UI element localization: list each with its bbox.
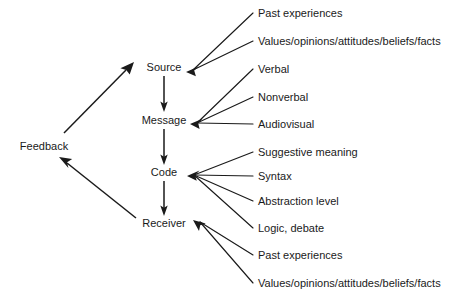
node-label-receiver[interactable]: Receiver — [142, 217, 186, 229]
branch-lines-code — [187, 152, 253, 228]
flow-arrow-feedback-to-source — [64, 62, 134, 133]
communication-model-diagram: Source Message Code Receiver Feedback Pa… — [0, 0, 456, 297]
branch-lines-receiver — [193, 220, 253, 283]
branch-label-code-abstraction-level[interactable]: Abstraction level — [258, 195, 339, 207]
branch-lines-message — [190, 69, 253, 129]
node-label-feedback[interactable]: Feedback — [20, 140, 69, 152]
branch-line-source-values — [193, 41, 253, 70]
branch-label-source-values[interactable]: Values/opinions/attitudes/beliefs/facts — [258, 35, 441, 47]
branch-label-code-syntax[interactable]: Syntax — [258, 170, 292, 182]
node-label-message[interactable]: Message — [142, 114, 187, 126]
feedback-loop-group — [59, 62, 136, 218]
branch-line-code-syntax — [194, 175, 253, 176]
branch-arrowhead-source — [186, 66, 199, 76]
flow-arrow-source-to-message — [160, 76, 167, 112]
spine-flow-group — [160, 76, 167, 216]
branch-arrowhead-receiver — [193, 220, 206, 231]
diagram-canvas: Source Message Code Receiver Feedback Pa… — [0, 0, 456, 297]
node-label-source[interactable]: Source — [147, 61, 182, 73]
branch-line-source-past-experiences — [193, 13, 253, 70]
branch-line-code-suggestive-meaning — [194, 152, 253, 175]
branch-label-receiver-past-experiences[interactable]: Past experiences — [258, 249, 343, 261]
branch-label-receiver-values[interactable]: Values/opinions/attitudes/beliefs/facts — [258, 277, 441, 289]
branch-labels-group: Past experiences Values/opinions/attitud… — [258, 7, 441, 289]
branch-arrowhead-code — [187, 171, 200, 181]
branch-line-message-audiovisual — [197, 123, 253, 124]
branch-label-code-suggestive-meaning[interactable]: Suggestive meaning — [258, 146, 358, 158]
branch-line-code-logic-debate — [194, 175, 253, 228]
branch-label-message-verbal[interactable]: Verbal — [258, 63, 289, 75]
branch-label-code-logic-debate[interactable]: Logic, debate — [258, 222, 324, 234]
branch-lines-source — [186, 13, 253, 76]
node-label-code[interactable]: Code — [151, 166, 177, 178]
branch-label-message-nonverbal[interactable]: Nonverbal — [258, 91, 308, 103]
branch-line-receiver-past-experiences — [200, 222, 253, 255]
branch-line-message-nonverbal — [197, 97, 253, 123]
flow-arrow-receiver-to-feedback — [59, 157, 136, 218]
branch-label-source-past-experiences[interactable]: Past experiences — [258, 7, 343, 19]
branch-line-receiver-values — [200, 222, 253, 283]
branch-label-message-audiovisual[interactable]: Audiovisual — [258, 118, 314, 130]
branch-arrowhead-message — [190, 119, 203, 129]
branch-line-message-verbal — [197, 69, 253, 123]
flow-arrow-code-to-receiver — [160, 181, 167, 216]
flow-arrow-message-to-code — [160, 129, 167, 165]
branch-line-code-abstraction-level — [194, 175, 253, 201]
